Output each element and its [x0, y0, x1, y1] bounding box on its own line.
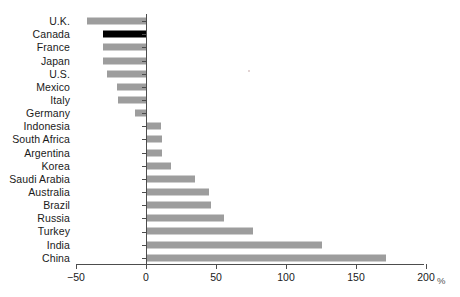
category-label: Turkey [38, 226, 70, 237]
y-axis-tick [142, 179, 147, 180]
y-axis-tick [142, 139, 147, 140]
x-axis-tick-label: 100 [277, 271, 295, 283]
category-label: U.K. [49, 16, 70, 27]
table-row: Japan [0, 54, 460, 67]
x-axis-tick-label: 150 [347, 271, 365, 283]
bar [87, 18, 146, 25]
table-row: Mexico [0, 80, 460, 93]
table-row: U.S. [0, 67, 460, 80]
category-label: India [47, 239, 70, 250]
y-axis-tick [142, 34, 147, 35]
y-axis-tick [142, 74, 147, 75]
bar [147, 228, 253, 235]
y-axis-tick [142, 21, 147, 22]
bar [147, 254, 386, 261]
y-axis-tick [142, 205, 147, 206]
table-row: Indonesia [0, 120, 460, 133]
bar [147, 149, 162, 156]
x-axis-tick [286, 264, 287, 269]
y-axis-tick [142, 61, 147, 62]
bar [147, 123, 161, 130]
x-axis-tick [76, 264, 77, 269]
table-row: Australia [0, 185, 460, 198]
bar [147, 241, 322, 248]
x-axis-tick [356, 264, 357, 269]
bar [147, 162, 171, 169]
table-row: Argentina [0, 146, 460, 159]
y-axis-tick [142, 126, 147, 127]
y-axis-tick [142, 192, 147, 193]
bar [147, 202, 211, 209]
table-row: South Africa [0, 133, 460, 146]
bar [147, 175, 195, 182]
x-axis-tick [216, 264, 217, 269]
category-label: China [42, 252, 70, 263]
table-row: India [0, 238, 460, 251]
bar [147, 215, 224, 222]
x-axis-tick-label: 0 [143, 271, 149, 283]
category-label: Argentina [24, 147, 70, 158]
table-row: Germany [0, 107, 460, 120]
category-label: Russia [37, 213, 70, 224]
category-label: Canada [33, 29, 70, 40]
chart-container: U.K.CanadaFranceJapanU.S.MexicoItalyGerm… [0, 0, 460, 297]
bar [147, 189, 209, 196]
y-axis-tick [142, 87, 147, 88]
category-label: Italy [50, 94, 70, 105]
x-axis-tick-label: 50 [210, 271, 222, 283]
bar [103, 44, 146, 51]
y-axis-tick [142, 100, 147, 101]
bar-highlighted [103, 31, 146, 38]
table-row: Russia [0, 212, 460, 225]
category-label: France [37, 42, 70, 53]
category-label: Korea [41, 160, 70, 171]
bar [107, 70, 146, 77]
x-axis-tick-label: 200 [417, 271, 435, 283]
category-label: Germany [26, 108, 70, 119]
x-axis-unit-label: % [437, 275, 445, 286]
artifact-speck [248, 70, 250, 72]
table-row: Italy [0, 93, 460, 106]
category-label: Indonesia [24, 121, 70, 132]
x-axis-line [76, 264, 424, 265]
category-label: South Africa [12, 134, 70, 145]
category-label: Brazil [43, 200, 70, 211]
y-axis-tick [142, 232, 147, 233]
y-axis-tick [142, 258, 147, 259]
table-row: France [0, 41, 460, 54]
category-label: Australia [28, 187, 70, 198]
x-axis-tick-label: −50 [67, 271, 85, 283]
category-label: U.S. [49, 68, 70, 79]
table-row: Korea [0, 159, 460, 172]
category-label: Mexico [36, 81, 70, 92]
table-row: China [0, 251, 460, 264]
x-axis-tick [146, 264, 147, 269]
table-row: Saudi Arabia [0, 172, 460, 185]
x-axis-tick [426, 264, 427, 269]
bar [103, 57, 146, 64]
y-axis-tick [142, 218, 147, 219]
y-axis-tick [142, 153, 147, 154]
category-label: Japan [41, 55, 70, 66]
table-row: Turkey [0, 225, 460, 238]
table-row: Brazil [0, 199, 460, 212]
y-axis-tick [142, 245, 147, 246]
bar [147, 136, 162, 143]
y-axis-tick [142, 113, 147, 114]
y-axis-tick [142, 166, 147, 167]
plot-area: U.K.CanadaFranceJapanU.S.MexicoItalyGerm… [0, 0, 460, 297]
y-axis-tick [142, 47, 147, 48]
table-row: U.K. [0, 15, 460, 28]
category-label: Saudi Arabia [9, 173, 70, 184]
table-row: Canada [0, 28, 460, 41]
